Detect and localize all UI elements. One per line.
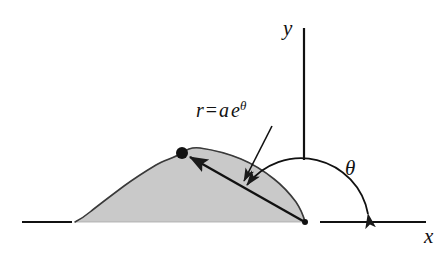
theta-angle-label: θ xyxy=(345,158,355,179)
shaded-spiral-region xyxy=(75,148,305,222)
figure-container: y x θ r=aeθ xyxy=(0,0,445,254)
equation-a-symbol: a xyxy=(219,99,231,121)
spiral-equation-label: r=aeθ xyxy=(196,98,246,120)
x-axis-label: x xyxy=(424,226,433,247)
equation-r-symbol: r xyxy=(196,99,204,121)
origin-point-marker xyxy=(302,219,308,225)
equation-equals-symbol: = xyxy=(204,99,219,121)
equation-e-symbol: e xyxy=(231,99,240,121)
spiral-point-marker xyxy=(176,147,188,159)
y-axis-label: y xyxy=(283,18,292,39)
spiral-figure-svg xyxy=(0,0,445,254)
equation-exponent-symbol: θ xyxy=(240,98,246,113)
